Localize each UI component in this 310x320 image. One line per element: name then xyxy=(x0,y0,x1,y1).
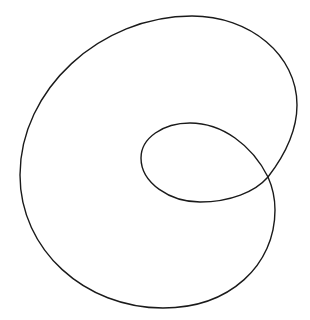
curve-diagram xyxy=(0,0,310,320)
background xyxy=(0,0,310,320)
